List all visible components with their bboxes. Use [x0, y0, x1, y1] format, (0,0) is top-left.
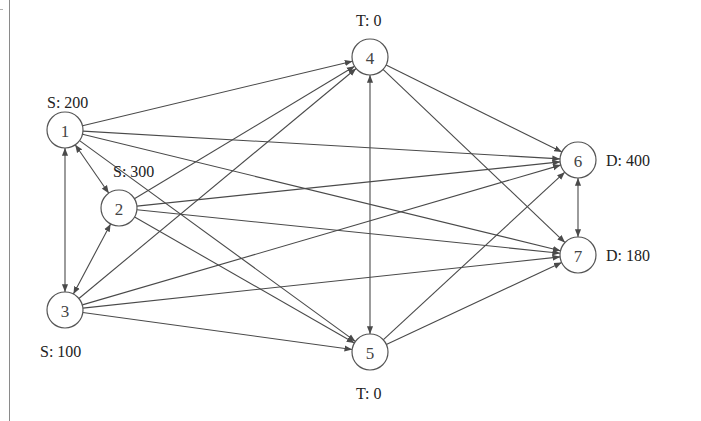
- edge-5-7: [386, 263, 561, 345]
- node-label: 7: [574, 247, 583, 266]
- node-7-annotation: D: 180: [606, 247, 650, 264]
- node-2-annotation: S: 300: [113, 163, 154, 180]
- node-2: 2: [101, 190, 137, 226]
- node-label: 6: [574, 152, 583, 171]
- edge-3-7: [83, 257, 560, 308]
- node-6-annotation: D: 400: [606, 152, 650, 169]
- node-3: 3: [47, 292, 83, 328]
- node-4-annotation: T: 0: [356, 12, 381, 29]
- node-label: 5: [366, 344, 375, 363]
- edge-2-4: [134, 66, 354, 198]
- node-5-annotation: T: 0: [356, 385, 381, 402]
- node-5: 5: [352, 334, 388, 370]
- node-3-annotation: S: 100: [40, 343, 81, 360]
- node-label: 3: [61, 302, 70, 321]
- node-label: 2: [115, 200, 124, 219]
- node-label: 1: [61, 122, 70, 141]
- nodes-layer: 1234567: [47, 39, 596, 370]
- edge-5-6: [383, 172, 565, 340]
- edge-1-6: [83, 131, 560, 159]
- edge-1-7: [83, 134, 561, 250]
- edges-layer: [65, 61, 578, 349]
- edge-3-6: [82, 165, 560, 305]
- network-diagram: 1234567 S: 200S: 300S: 100T: 0T: 0D: 400…: [0, 0, 701, 421]
- edge-1-2: [75, 145, 109, 193]
- edge-2-3: [73, 224, 110, 294]
- edge-4-6: [386, 65, 562, 152]
- node-1-annotation: S: 200: [47, 94, 88, 111]
- node-6: 6: [560, 142, 596, 178]
- edge-2-7: [137, 210, 560, 253]
- edge-1-4: [83, 61, 353, 126]
- node-4: 4: [352, 39, 388, 75]
- node-7: 7: [560, 237, 596, 273]
- edge-4-7: [383, 69, 565, 242]
- node-1: 1: [47, 112, 83, 148]
- node-label: 4: [366, 49, 375, 68]
